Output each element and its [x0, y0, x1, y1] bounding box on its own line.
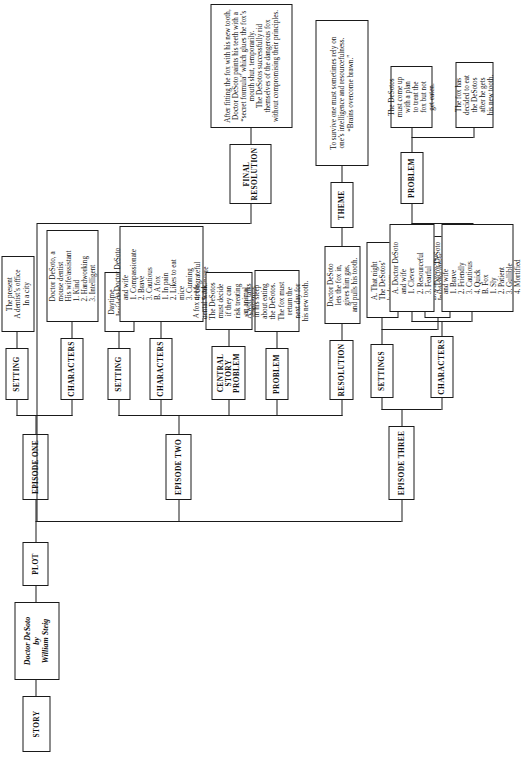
connector	[341, 166, 342, 182]
node-theme-text: To survive one must sometimes rely on on…	[315, 20, 368, 166]
theme-content: To survive one must sometimes rely on on…	[329, 37, 353, 150]
connector	[401, 410, 402, 426]
central-story-problem-label: CENTRAL STORY PROBLEM	[216, 353, 241, 393]
ep2-problem-label: PROBLEM	[272, 354, 280, 394]
node-ep3-characters: CHARACTERS	[430, 336, 453, 398]
node-central-story-problem: CENTRAL STORY PROBLEM	[211, 346, 245, 400]
ep1-characters-content: Doctor DeSoto, a mouse dentist His wife/…	[48, 251, 96, 302]
ep3-setting-a-content: A. That night The DeSotos’ bedroom	[370, 260, 394, 300]
ep3-characters-label: CHARACTERS	[437, 339, 445, 394]
node-ep3-setting-b: B. The next day Inside the office	[424, 236, 450, 318]
node-theme: THEME	[330, 182, 353, 228]
node-ep3-characters-a	[198, 312, 202, 318]
node-ep1-characters-text: Doctor DeSoto, a mouse dentist His wife/…	[46, 230, 98, 322]
node-ep2-resolution-text: Doctor DeSoto lets the fox in, gives him…	[324, 246, 360, 324]
node-ep3-settings: SETTINGS	[370, 344, 393, 398]
connector	[35, 522, 36, 542]
connector	[16, 400, 17, 416]
connector	[35, 500, 36, 522]
connector	[401, 500, 402, 522]
node-plot: PLOT	[22, 542, 48, 586]
episode-three-label: EPISODE THREE	[397, 431, 405, 496]
connector	[160, 322, 161, 338]
node-ep2-setting: SETTING	[107, 348, 130, 400]
connector	[381, 398, 382, 410]
ep1-setting-content: The present A dentist’s office In a city	[5, 270, 29, 319]
connector	[35, 416, 36, 434]
connector	[35, 586, 36, 602]
ep3-problem-b-content: The fox has decided to eat the DeSotos a…	[454, 75, 494, 116]
node-ep1-characters: CHARACTERS	[60, 338, 83, 400]
episode-one-label: EPISODE ONE	[31, 440, 39, 494]
connector	[341, 400, 342, 416]
connector	[228, 330, 229, 346]
node-ep2-characters: CHARACTERS	[149, 338, 172, 400]
connector	[341, 228, 342, 246]
node-ep3-setting-a: A. That night The DeSotos’ bedroom	[366, 242, 398, 318]
node-episode-two: EPISODE TWO	[165, 434, 191, 500]
connector	[178, 500, 179, 522]
connector	[381, 318, 382, 330]
connector	[35, 680, 36, 696]
connector	[16, 332, 17, 348]
connector	[71, 322, 72, 338]
node-ep1-setting: SETTING	[5, 348, 28, 400]
episode-three-branch	[381, 409, 441, 410]
ep2-setting-label: SETTING	[114, 356, 122, 391]
node-ep3-problem-b-text: The fox has decided to eat the DeSotos a…	[455, 62, 493, 128]
node-episode-one: EPISODE ONE	[22, 434, 48, 500]
connector	[381, 330, 382, 344]
connector	[118, 332, 119, 348]
node-plot-label: PLOT	[31, 553, 39, 575]
node-ep2-problem-text: A wolf talks in his sleep about eating t…	[254, 270, 299, 332]
connector	[437, 318, 438, 330]
connector	[118, 400, 119, 416]
node-book-label: Doctor DeSoto by William Steig	[23, 617, 50, 666]
connector	[473, 128, 474, 138]
ep3-settings-split	[381, 329, 437, 330]
connector	[471, 312, 472, 322]
connector	[160, 400, 161, 416]
episode-one-branch	[16, 415, 72, 416]
episode-two-label: EPISODE TWO	[174, 439, 182, 495]
connector	[71, 400, 72, 416]
node-ep2-problem: PROBLEM	[265, 348, 288, 400]
ep1-setting-label: SETTING	[12, 356, 20, 391]
ep2-resolution-label: RESOLUTION	[337, 344, 345, 397]
episode-trunk	[35, 521, 401, 522]
connector	[276, 400, 277, 416]
node-ep2-resolution: RESOLUTION	[329, 340, 353, 400]
node-story: STORY	[22, 696, 50, 752]
connector	[228, 400, 229, 416]
node-ep1-setting-text: The present A dentist’s office In a city	[1, 256, 34, 332]
connector	[178, 416, 179, 434]
ep3-settings-label: SETTINGS	[377, 351, 385, 391]
connector	[441, 398, 442, 410]
connector	[276, 332, 277, 348]
node-book: Doctor DeSoto by William Steig	[14, 602, 59, 680]
ep2-resolution-content: Doctor DeSoto lets the fox in, gives him…	[326, 258, 358, 313]
connector	[341, 324, 342, 340]
node-story-label: STORY	[32, 711, 40, 738]
ep2-problem-content: A wolf talks in his sleep about eating t…	[244, 281, 309, 322]
episode-two-branch	[118, 415, 342, 416]
ep1-characters-label: CHARACTERS	[67, 341, 75, 396]
ep3-setting-b-content: B. The next day Inside the office	[429, 254, 445, 301]
ep2-characters-label: CHARACTERS	[156, 341, 164, 396]
theme-label: THEME	[337, 190, 345, 219]
node-episode-three: EPISODE THREE	[388, 426, 414, 500]
node-ep2-characters-text: A. Doctor DeSoto and wife 1. Compassiona…	[119, 226, 203, 322]
